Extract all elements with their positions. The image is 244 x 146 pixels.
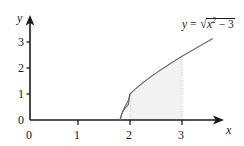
- x-axis-label: x: [226, 124, 231, 136]
- x-tick-label-0: 0: [26, 129, 32, 141]
- x-tick-label-2: 2: [126, 129, 132, 141]
- curve-equation-label: y = √x2 − 3: [182, 18, 235, 31]
- radicand-constant: 3: [228, 18, 234, 30]
- y-tick-label-1: 1: [18, 88, 24, 100]
- equation-radical: √x2 − 3: [199, 18, 234, 31]
- y-axis-label: y: [17, 12, 22, 24]
- y-tick-label-3: 3: [18, 36, 24, 48]
- x-tick-label-3: 3: [178, 129, 184, 141]
- shaded-region: [130, 56, 182, 120]
- x-tick-label-1: 1: [74, 129, 80, 141]
- y-tick-label-2: 2: [18, 62, 24, 74]
- radicand: x2 − 3: [206, 18, 235, 31]
- y-tick-label-0: 0: [18, 114, 24, 126]
- figure-graph-sqrt-x-squared-minus-3: y x 0 1 2 3 0 1 2 3 y = √x2 − 3: [0, 0, 244, 146]
